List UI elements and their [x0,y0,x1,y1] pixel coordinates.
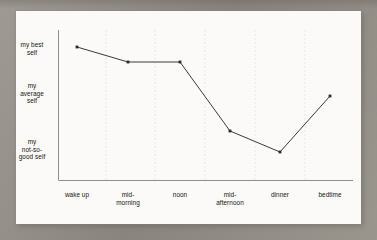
x-tick-line: mid- [202,191,258,199]
x-axis-labels: wake up mid- morning noon mid- afternoon… [16,11,361,224]
x-tick-label-dinner: dinner [252,191,308,199]
chart-page-sheet: my best self my average self my not-so- … [16,11,361,224]
x-tick-label-noon: noon [152,191,208,199]
x-tick-line: mid- [100,191,156,199]
x-tick-label-wake-up: wake up [49,191,105,199]
x-tick-label-mid-afternoon: mid- afternoon [202,191,258,207]
x-tick-line: noon [152,191,208,199]
x-tick-line: bedtime [302,191,358,199]
x-tick-line: dinner [252,191,308,199]
x-tick-line: morning [100,199,156,207]
x-tick-line: wake up [49,191,105,199]
x-tick-line: afternoon [202,199,258,207]
x-tick-label-mid-morning: mid- morning [100,191,156,207]
line-chart-figure: my best self my average self my not-so- … [16,11,361,224]
x-tick-label-bedtime: bedtime [302,191,358,199]
